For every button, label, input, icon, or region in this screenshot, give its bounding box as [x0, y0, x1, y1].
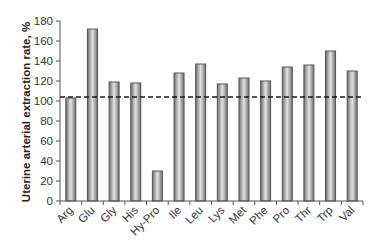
y-tick-label: 120	[34, 75, 53, 87]
x-axis: ArgGluGlyHisHy-ProIleLeuLysMetPheProThrT…	[54, 201, 363, 238]
y-tick-label: 0	[47, 195, 53, 207]
bar-thr	[304, 65, 314, 201]
x-tick-label: Lys	[206, 204, 227, 225]
y-tick-label: 100	[34, 95, 53, 107]
bar-leu	[196, 64, 206, 201]
y-tick-label: 180	[34, 15, 53, 27]
x-tick-label: Arg	[54, 204, 75, 225]
y-tick-label: 160	[34, 35, 53, 47]
bar-arg	[66, 98, 76, 201]
x-tick-label: Pro	[271, 204, 292, 225]
bar-glu	[87, 29, 97, 201]
x-tick-label: Gly	[98, 204, 119, 225]
x-tick-label: Glu	[76, 204, 97, 225]
x-tick-label: Trp	[315, 204, 335, 224]
x-tick-label: Phe	[247, 204, 270, 227]
bar-pro	[282, 67, 292, 201]
y-tick-label: 40	[40, 155, 53, 167]
x-tick-label: Ile	[166, 204, 183, 221]
bar-trp	[326, 51, 336, 201]
x-tick-label: Val	[337, 204, 357, 224]
x-tick-label: Met	[226, 203, 249, 226]
bar-hy-pro	[152, 171, 162, 201]
x-tick-label: Leu	[183, 204, 205, 226]
y-axis: 020406080100120140160180	[34, 15, 60, 207]
bar-ile	[174, 73, 184, 201]
bars	[66, 29, 357, 201]
bar-chart: 020406080100120140160180 ArgGluGlyHisHy-…	[0, 0, 383, 245]
bar-phe	[261, 81, 271, 201]
bar-lys	[217, 84, 227, 201]
bar-val	[347, 71, 357, 201]
x-tick-label: Thr	[293, 204, 314, 225]
bar-his	[131, 83, 141, 201]
y-tick-label: 80	[40, 115, 53, 127]
y-tick-label: 60	[40, 135, 53, 147]
bar-gly	[109, 82, 119, 201]
y-tick-label: 20	[40, 175, 53, 187]
y-tick-label: 140	[34, 55, 53, 67]
